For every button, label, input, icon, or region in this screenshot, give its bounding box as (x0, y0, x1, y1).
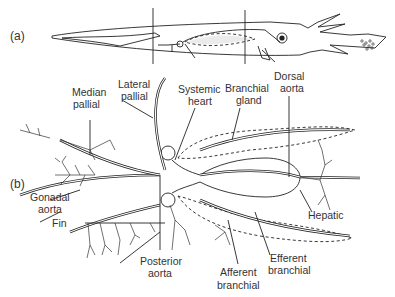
label-efferent-branchial: Efferent branchial (268, 252, 311, 276)
label-gonadal-aorta: Gonadal aorta (30, 191, 70, 215)
upper-gill-outline (178, 127, 355, 159)
label-median-pallial: Median pallial (72, 86, 107, 110)
label-systemic-heart: Systemic heart (178, 83, 221, 107)
svg-text:aorta: aorta (280, 82, 304, 94)
label-posterior-aorta: Posterior aorta (140, 255, 183, 279)
svg-text:pallial: pallial (121, 90, 148, 102)
svg-text:pallial: pallial (73, 98, 100, 110)
systemic-heart-body-pointer (185, 44, 195, 58)
svg-text:Branchial: Branchial (225, 82, 269, 94)
svg-text:Fin: Fin (52, 217, 67, 229)
panel-b-label: (b) (10, 177, 25, 191)
svg-text:branchial: branchial (268, 264, 311, 276)
label-dorsal-aorta: Dorsal aorta (274, 70, 304, 94)
branchial-heart-upper (161, 146, 175, 160)
pupil (279, 35, 284, 40)
svg-text:Posterior: Posterior (140, 255, 183, 267)
dorsal-aorta-body-pointer (262, 50, 275, 62)
svg-text:Median: Median (72, 86, 107, 98)
svg-text:Afferent: Afferent (220, 266, 257, 278)
label-fin: Fin (52, 217, 67, 229)
svg-text:Dorsal: Dorsal (274, 70, 304, 82)
svg-text:Systemic: Systemic (178, 83, 221, 95)
branchial-gland-pointer (232, 108, 240, 140)
svg-text:Lateral: Lateral (118, 78, 150, 90)
squid-circulation-diagram: (a) (b) (0, 0, 395, 297)
label-afferent-branchial: Afferent branchial (217, 266, 260, 291)
systemic-heart (172, 158, 300, 197)
svg-text:aorta: aorta (38, 203, 62, 215)
svg-text:aorta: aorta (148, 267, 172, 279)
label-hepatic: Hepatic (308, 209, 344, 221)
efferent-branchial-pointer (255, 212, 270, 255)
label-lateral-pallial: Lateral pallial (118, 78, 150, 102)
svg-text:Efferent: Efferent (270, 252, 307, 264)
tentacle-club-suckers (361, 40, 374, 50)
squid-body-outline (52, 8, 386, 64)
lateral-pallial-pointer (122, 100, 153, 118)
panel-a-label: (a) (10, 29, 25, 43)
circulatory-vessels (20, 44, 360, 264)
svg-text:branchial: branchial (217, 279, 260, 291)
label-branchial-gland: Branchial gland (225, 82, 269, 106)
svg-text:heart: heart (188, 95, 212, 107)
afferent-branchial-pointer (228, 220, 238, 264)
svg-text:Gonadal: Gonadal (30, 191, 70, 203)
branchial-heart-lower (161, 193, 175, 207)
svg-text:Hepatic: Hepatic (308, 209, 344, 221)
svg-text:gland: gland (236, 94, 262, 106)
systemic-heart-pointer (175, 108, 195, 160)
